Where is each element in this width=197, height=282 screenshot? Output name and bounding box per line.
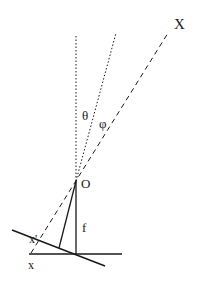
ray-to-X-line (31, 33, 168, 253)
label-x: x (28, 258, 34, 272)
label-x-prime: x' (29, 232, 37, 246)
tilted-normal-line (59, 181, 76, 248)
label-phi: φ (99, 116, 107, 131)
label-O: O (81, 176, 90, 191)
diagram-canvas: X θ φ O f x' x (0, 0, 197, 282)
label-X: X (174, 16, 185, 32)
camera-geometry-diagram: X θ φ O f x' x (0, 0, 197, 282)
label-f: f (82, 220, 87, 235)
tilted-axis-line (76, 33, 116, 181)
tilted-image-plane-line (12, 230, 105, 266)
label-theta: θ (82, 108, 88, 123)
